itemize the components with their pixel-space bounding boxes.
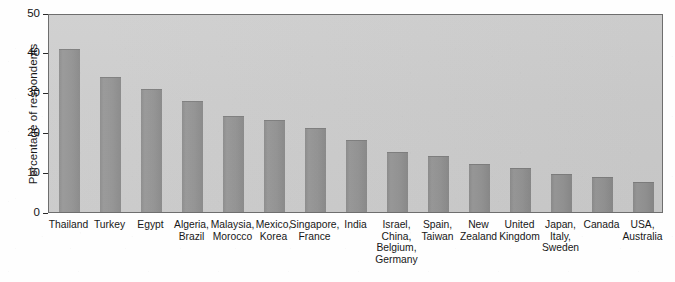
- y-axis-tick-mark: [43, 173, 48, 174]
- bar: [100, 77, 121, 212]
- y-axis-tick-label: 30: [27, 85, 40, 100]
- y-axis-tick: 30: [0, 93, 48, 94]
- bar: [592, 177, 613, 212]
- x-axis-category-label-line: Australia: [612, 231, 674, 243]
- y-axis-tick-label: 40: [27, 45, 40, 60]
- y-axis-tick: 50: [0, 14, 48, 15]
- x-axis-category-label-line: Sweden: [530, 242, 592, 254]
- y-axis-tick-label: 10: [27, 165, 40, 180]
- bar: [510, 168, 531, 212]
- x-axis-category-label-line: Italy,: [530, 231, 592, 243]
- y-axis-tick-mark: [43, 213, 48, 214]
- y-axis-tick-mark: [43, 133, 48, 134]
- x-axis-category-label-line: Belgium,: [366, 242, 428, 254]
- y-axis-tick-label: 50: [27, 6, 40, 21]
- bar: [141, 89, 162, 212]
- x-axis-category-labels: ThailandTurkeyEgyptAlgeria,BrazilMalaysi…: [48, 219, 663, 281]
- bar: [182, 101, 203, 212]
- bar: [305, 128, 326, 212]
- y-axis-tick-mark: [43, 14, 48, 15]
- x-axis-category-label-line: USA,: [612, 219, 674, 231]
- x-axis-category-label-line: France: [284, 231, 346, 243]
- y-axis-tick: 40: [0, 53, 48, 54]
- bar: [264, 120, 285, 212]
- bar-chart-figure: Percentage of respondents ThailandTurkey…: [0, 0, 675, 282]
- y-axis-tick-label: 20: [27, 125, 40, 140]
- bar: [387, 152, 408, 212]
- x-axis-category-label: USA,Australia: [612, 219, 674, 242]
- y-axis-tick: 20: [0, 133, 48, 134]
- plot-area: [48, 14, 663, 213]
- y-axis-tick-mark: [43, 53, 48, 54]
- y-axis-tick: 0: [0, 213, 48, 214]
- bar: [469, 164, 490, 212]
- bar: [551, 174, 572, 212]
- y-axis-tick-label: 0: [34, 205, 40, 220]
- y-axis-tick: 10: [0, 173, 48, 174]
- bar: [633, 182, 654, 212]
- bar: [223, 116, 244, 212]
- bar: [346, 140, 367, 212]
- bar: [428, 156, 449, 212]
- bar: [59, 49, 80, 212]
- y-axis-tick-mark: [43, 93, 48, 94]
- x-axis-category-label-line: Germany: [366, 254, 428, 266]
